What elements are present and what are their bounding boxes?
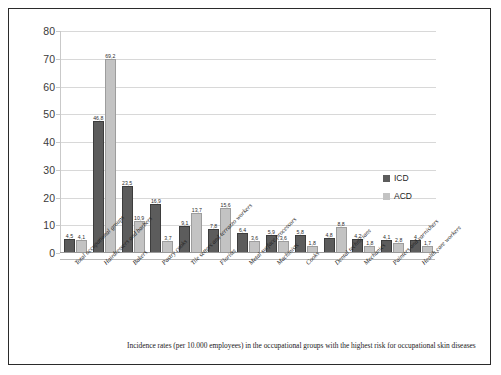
bar-value-label: 5,8 <box>297 229 304 235</box>
bar-group: 9,113,7 <box>176 31 205 253</box>
chart-caption: Incidence rates (per 10.000 employees) i… <box>127 342 479 351</box>
legend-label-icd: ICD <box>394 173 409 183</box>
chart-frame: 01020304050607080 4,54,146,869,223,510,9… <box>8 8 491 365</box>
bar-value-label: 8,8 <box>337 221 344 227</box>
y-tick-label: 30 <box>29 164 55 176</box>
bar-value-label: 7,8 <box>210 223 217 229</box>
bar-group: 4,54,1 <box>61 31 90 253</box>
legend-item-icd: ICD <box>383 173 453 183</box>
bar-value-label: 3,7 <box>164 235 171 241</box>
bar-value-label: 6,4 <box>239 227 246 233</box>
y-tick-label: 70 <box>29 53 55 65</box>
bar-group: 4,12,8 <box>378 31 407 253</box>
bar-group: 4,21,8 <box>349 31 378 253</box>
legend-label-acd: ACD <box>394 191 412 201</box>
y-tick-label: 80 <box>29 25 55 37</box>
legend-swatch-icd <box>383 175 390 182</box>
y-tick-label: 40 <box>29 136 55 148</box>
legend-swatch-acd <box>383 193 390 200</box>
bar-acd[interactable]: 13,7 <box>191 213 202 253</box>
bar-value-label: 13,7 <box>192 207 202 213</box>
bar-icd[interactable]: 4,8 <box>324 238 335 253</box>
x-axis-category-labels: Total occupational groupsHairdressers an… <box>61 261 436 339</box>
bar-value-label: 1,8 <box>366 240 373 246</box>
bar-value-label: 4,8 <box>325 232 332 238</box>
bar-value-label: 4,1 <box>383 234 390 240</box>
bar-value-label: 15,6 <box>221 202 231 208</box>
bar-value-label: 1,7 <box>424 240 431 246</box>
chart-canvas: 01020304050607080 4,54,146,869,223,510,9… <box>9 9 492 366</box>
y-tick-label: 0 <box>29 247 55 259</box>
bar-value-label: 2,8 <box>395 237 402 243</box>
y-tick-label: 10 <box>29 219 55 231</box>
bar-icd[interactable]: 16,9 <box>150 204 161 253</box>
bar-value-label: 3,6 <box>251 235 258 241</box>
bar-value-label: 9,1 <box>181 220 188 226</box>
bar-group: 4,88,8 <box>321 31 350 253</box>
bar-icd[interactable]: 6,4 <box>237 233 248 253</box>
y-tick-label: 50 <box>29 108 55 120</box>
y-tick-label: 60 <box>29 81 55 93</box>
y-axis: 01020304050607080 <box>27 31 55 253</box>
chart-legend: ICD ACD <box>383 173 453 209</box>
bar-value-label: 46,8 <box>93 115 103 121</box>
bar-value-label: 4,1 <box>78 234 85 240</box>
legend-item-acd: ACD <box>383 191 453 201</box>
bar-value-label: 23,5 <box>122 180 132 186</box>
bar-value-label: 16,9 <box>151 198 161 204</box>
bar-icd[interactable]: 4,5 <box>64 239 75 253</box>
y-tick-label: 20 <box>29 192 55 204</box>
bar-value-label: 4,5 <box>66 233 73 239</box>
bar-value-label: 69,2 <box>105 53 115 59</box>
bar-value-label: 1,8 <box>309 240 316 246</box>
